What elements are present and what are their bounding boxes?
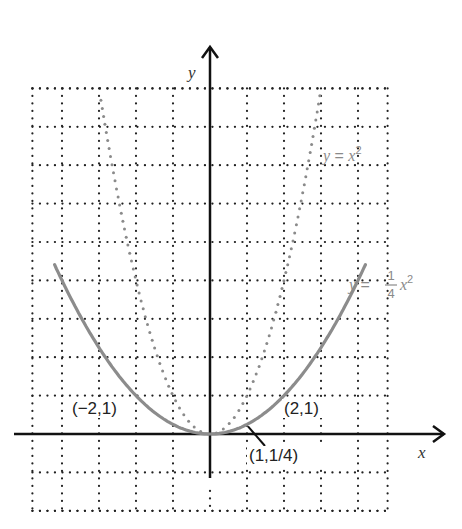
curve-dot — [241, 402, 244, 405]
curve-dot — [309, 151, 312, 154]
curve-dot — [99, 99, 102, 102]
curve-dot — [245, 395, 248, 398]
curve-dot — [121, 220, 124, 223]
legend-label-y-equals-x-squared: y = x2 — [321, 144, 362, 165]
curve-dot — [222, 428, 225, 431]
curve-dot — [187, 420, 190, 423]
curve-dot — [111, 163, 114, 166]
curve-dot — [265, 342, 268, 345]
curve-dot — [300, 199, 303, 202]
curve-dot — [306, 167, 309, 170]
curve-dot — [174, 399, 177, 402]
curve-dot — [144, 315, 147, 318]
annotation-point-1-quarter: (1,1/4) — [249, 446, 298, 465]
curve-dot — [258, 365, 261, 368]
curve-dot — [297, 215, 300, 218]
curve-dot — [120, 212, 123, 215]
label-eq: = — [330, 147, 348, 164]
label-eq: = — [356, 276, 370, 293]
curve-dot — [282, 279, 285, 282]
label-var: x — [347, 147, 355, 164]
curve-dot — [140, 299, 143, 302]
curve-dot — [249, 388, 252, 391]
curve-dot — [237, 409, 240, 412]
curve-dot — [178, 406, 181, 409]
curve-dot — [312, 135, 315, 138]
curve-dot — [284, 271, 287, 274]
curve-dot — [317, 102, 320, 105]
curve-dot — [307, 159, 310, 162]
label-fraction-numerator: 1 — [387, 268, 394, 283]
curve-dot — [313, 127, 316, 130]
label-lhs-eq: y = — [347, 276, 370, 294]
curve-dot — [123, 228, 126, 231]
curve-dot — [293, 232, 296, 235]
curve-dot — [233, 416, 236, 419]
annotation-point-neg2-1: (−2,1) — [72, 399, 117, 418]
curve-dot — [161, 370, 164, 373]
curve-dot — [164, 377, 167, 380]
curve-dot — [228, 422, 231, 425]
label-fraction-denominator: 4 — [387, 286, 394, 301]
curve-dot — [109, 155, 112, 158]
label-var: x — [399, 276, 407, 293]
curve-dot — [130, 260, 133, 263]
curve-dot — [171, 392, 174, 395]
curve-dot — [153, 347, 156, 350]
curve-dot — [281, 287, 284, 290]
label-var-exp: x2 — [399, 273, 413, 293]
curve-dot — [114, 179, 117, 182]
curve-dot — [272, 319, 275, 322]
curve-dot — [286, 263, 289, 266]
y-axis-label: y — [186, 63, 196, 82]
curve-dot — [125, 236, 128, 239]
curve-dot — [301, 191, 304, 194]
curve-dot — [263, 350, 266, 353]
curve-dot — [276, 303, 279, 306]
annotation-point-2-1: (2,1) — [284, 399, 319, 418]
curve-dot — [148, 331, 151, 334]
curve-dot — [117, 196, 120, 199]
curve-dot — [295, 223, 298, 226]
curve-dot — [142, 307, 145, 310]
parabola-chart: x y y = x2 y = 1 4 x2 (−2,1) (2,1) (1,1/… — [0, 0, 462, 529]
curve-dot — [101, 107, 104, 110]
curve-dot — [132, 268, 135, 271]
label-exp: 2 — [407, 273, 413, 285]
curve-dot — [158, 362, 161, 365]
curve-dot — [134, 276, 137, 279]
curve-dot — [151, 339, 154, 342]
curve-dot — [292, 240, 295, 243]
curve-dot — [274, 311, 277, 314]
curve-dot — [103, 123, 106, 126]
legend-label-y-equals-quarter-x-squared: y = 1 4 x2 — [347, 268, 413, 301]
curve-dot — [270, 326, 273, 329]
curve-dot — [102, 115, 105, 118]
curve-dot — [298, 207, 301, 210]
curve-dot — [182, 413, 185, 416]
curve-dot — [288, 255, 291, 258]
curve-dot — [105, 131, 108, 134]
curve-dot — [316, 110, 319, 113]
curve-dot — [138, 292, 141, 295]
curve-dot — [115, 188, 118, 191]
curve-dot — [310, 143, 313, 146]
curve-dot — [290, 247, 293, 250]
curve-dot — [106, 139, 109, 142]
curve-dot — [318, 94, 321, 97]
x-axis-label: x — [417, 443, 426, 462]
curve-dot — [136, 284, 139, 287]
curve-dot — [260, 357, 263, 360]
curve-dot — [128, 252, 131, 255]
curve-dot — [279, 295, 282, 298]
curve-dot — [156, 354, 159, 357]
curve-dot — [268, 334, 271, 337]
label-exp: 2 — [355, 144, 361, 156]
curve-dot — [118, 204, 121, 207]
curve-dot — [112, 171, 115, 174]
annotation-arrow — [248, 426, 265, 446]
curve-dot — [167, 385, 170, 388]
curve-dot — [303, 183, 306, 186]
curve-dot — [108, 147, 111, 150]
curve-dot — [146, 323, 149, 326]
